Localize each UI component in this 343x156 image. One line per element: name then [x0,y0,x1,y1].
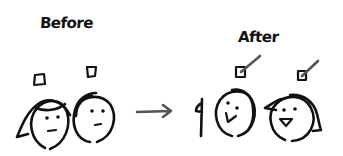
after-panel [196,56,321,141]
illustration-svg [0,0,343,156]
person-neutral-short-hair [74,93,114,142]
hair-icon [76,93,96,116]
person-neutral-long-hair [17,100,70,149]
person-happy-short-hair [216,90,255,136]
before-panel [17,67,114,149]
hair-icon [232,90,253,129]
hair-icon [17,100,70,137]
smile-mouth [226,113,236,122]
open-smile-mouth [280,119,292,126]
unchecked-checkbox-icon [34,74,45,85]
person-happy-long-hair [265,95,321,141]
unchecked-checkbox-icon [87,67,96,77]
before-after-illustration: Before After [0,0,343,156]
checked-checkbox-icon [298,61,318,80]
arrow-right-icon [137,105,171,117]
checked-checkbox-icon [236,56,260,77]
raised-hand-icon [196,99,202,136]
